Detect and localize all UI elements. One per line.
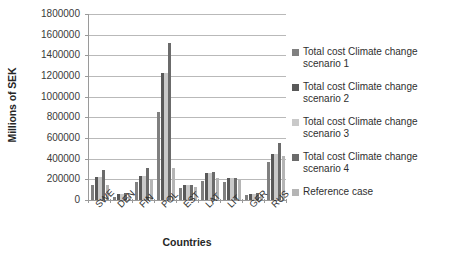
- bar: [157, 112, 160, 200]
- x-axis-tickmark: [154, 199, 155, 203]
- x-axis-tickmark: [242, 199, 243, 203]
- y-axis-tick-label: 0: [74, 195, 80, 205]
- y-axis-tick-label: 1000000: [41, 92, 80, 102]
- bar-group: [199, 14, 221, 200]
- legend-item[interactable]: Total cost Climate change scenario 2: [292, 81, 456, 105]
- legend-swatch-icon: [292, 49, 299, 56]
- bar: [91, 185, 94, 201]
- legend-swatch-icon: [292, 119, 299, 126]
- legend-item-label: Total cost Climate change scenario 4: [303, 151, 456, 175]
- y-axis-tick-label: 1600000: [41, 30, 80, 40]
- y-axis-tick-labels: 1800000160000014000001200000100000080000…: [22, 14, 84, 200]
- bar-chart: Millions of SEK 180000016000001400000120…: [0, 0, 460, 263]
- legend-item-label: Total cost Climate change scenario 3: [303, 116, 456, 140]
- legend-item[interactable]: Total cost Climate change scenario 1: [292, 46, 456, 70]
- x-axis-tick-labels: SWEDENFINPOLESTLATLITGERRUS: [88, 200, 286, 232]
- y-axis-tick-label: 1400000: [41, 50, 80, 60]
- y-axis-tick-label: 600000: [47, 133, 80, 143]
- bar: [179, 188, 182, 200]
- bars-layer: [89, 14, 286, 200]
- x-axis-tickmark: [220, 199, 221, 203]
- legend-item-label: Reference case: [303, 186, 373, 198]
- bar: [164, 73, 167, 200]
- chart-legend: Total cost Climate change scenario 1Tota…: [292, 46, 456, 209]
- legend-item[interactable]: Total cost Climate change scenario 3: [292, 116, 456, 140]
- bar-group: [89, 14, 111, 200]
- bar-group: [243, 14, 265, 200]
- x-axis-tickmark: [176, 199, 177, 203]
- plot-area: [88, 14, 286, 200]
- legend-swatch-icon: [292, 189, 299, 196]
- y-axis-title-text: Millions of SEK: [6, 68, 18, 143]
- bar-group: [221, 14, 243, 200]
- y-axis-tick-label: 1800000: [41, 9, 80, 19]
- legend-item-label: Total cost Climate change scenario 1: [303, 46, 456, 70]
- bar: [161, 73, 164, 200]
- y-axis-title: Millions of SEK: [2, 0, 22, 210]
- x-axis-tickmark: [264, 199, 265, 203]
- x-axis-tickmark: [286, 199, 287, 203]
- legend-swatch-icon: [292, 154, 299, 161]
- bar-group: [265, 14, 287, 200]
- x-axis-tickmark: [132, 199, 133, 203]
- legend-item-label: Total cost Climate change scenario 2: [303, 81, 456, 105]
- y-axis-tick-label: 1200000: [41, 71, 80, 81]
- bar-group: [177, 14, 199, 200]
- bar-group: [111, 14, 133, 200]
- x-axis-tickmark: [88, 199, 89, 203]
- legend-swatch-icon: [292, 84, 299, 91]
- bar-group: [155, 14, 177, 200]
- x-axis-tickmark: [198, 199, 199, 203]
- bar: [168, 43, 171, 200]
- y-axis-tick-label: 800000: [47, 112, 80, 122]
- x-axis-tickmark: [110, 199, 111, 203]
- legend-item[interactable]: Reference case: [292, 186, 456, 198]
- bar: [271, 154, 274, 201]
- y-axis-tick-label: 400000: [47, 154, 80, 164]
- x-axis-title: Countries: [88, 236, 286, 248]
- legend-item[interactable]: Total cost Climate change scenario 4: [292, 151, 456, 175]
- bar-group: [133, 14, 155, 200]
- y-axis-tick-label: 200000: [47, 174, 80, 184]
